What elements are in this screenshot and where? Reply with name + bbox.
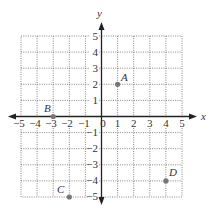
coordinate-plane: x y −5 −4 −3 −2 −1 0 1 2 3 4 5 5 4 3 2 1…	[0, 0, 213, 209]
svg-text:−3: −3	[45, 117, 57, 129]
svg-text:4: 4	[163, 117, 169, 129]
arrow-right-icon	[189, 114, 197, 120]
svg-text:−4: −4	[29, 117, 41, 129]
y-axis-label: y	[96, 7, 102, 19]
svg-text:−5: −5	[13, 117, 25, 129]
svg-text:3: 3	[93, 62, 99, 74]
x-axis-label: x	[200, 110, 206, 122]
svg-text:−2: −2	[61, 117, 73, 129]
point-A: A	[115, 71, 128, 87]
svg-text:C: C	[57, 183, 65, 195]
svg-text:0: 0	[100, 117, 106, 129]
svg-text:1: 1	[93, 94, 99, 106]
svg-text:4: 4	[93, 46, 99, 58]
svg-text:−4: −4	[86, 174, 98, 186]
arrow-up-icon	[99, 22, 105, 30]
svg-text:D: D	[168, 166, 177, 178]
svg-text:5: 5	[93, 30, 99, 42]
svg-text:5: 5	[179, 117, 185, 129]
y-axis	[99, 22, 105, 205]
svg-text:1: 1	[115, 117, 121, 129]
svg-text:B: B	[44, 102, 51, 114]
svg-text:2: 2	[93, 78, 99, 90]
svg-text:−1: −1	[86, 126, 98, 138]
svg-text:2: 2	[131, 117, 137, 129]
point-D: D	[163, 166, 177, 183]
svg-text:A: A	[120, 71, 128, 83]
svg-text:−3: −3	[86, 158, 98, 170]
svg-text:−5: −5	[86, 190, 98, 202]
svg-text:−2: −2	[86, 142, 98, 154]
arrow-down-icon	[99, 197, 105, 205]
svg-text:3: 3	[147, 117, 153, 129]
